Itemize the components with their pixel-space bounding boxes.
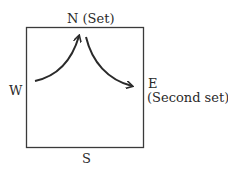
arrow-north-to-east xyxy=(86,37,132,86)
diagram-canvas xyxy=(0,0,228,169)
label-east-note: (Second set) xyxy=(147,91,228,104)
compass-diagram: N (Set) W E (Second set) S xyxy=(0,0,228,169)
label-east: E xyxy=(148,77,158,90)
label-north: N (Set) xyxy=(67,12,114,25)
label-south: S xyxy=(82,152,91,165)
arrow-west-to-north xyxy=(35,36,79,81)
label-west: W xyxy=(9,84,22,97)
square-box xyxy=(27,28,144,148)
